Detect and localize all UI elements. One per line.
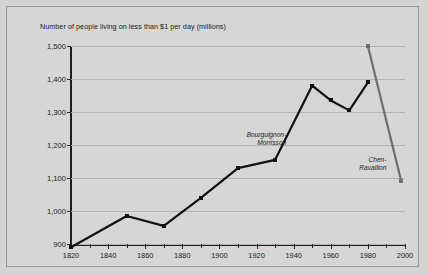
chart-title: Number of people living on less than $1 … <box>40 22 226 31</box>
data-series-layer <box>71 46 405 244</box>
data-point-marker <box>162 224 166 228</box>
data-point-marker <box>236 166 240 170</box>
data-point-marker <box>347 108 351 112</box>
data-point-marker <box>329 98 333 102</box>
data-point-marker <box>366 44 370 48</box>
y-axis-tick-label: 1,000 <box>47 207 66 216</box>
x-axis-tick <box>275 244 276 248</box>
data-point-marker <box>366 80 370 84</box>
x-axis-tick <box>312 244 313 248</box>
x-axis-tick-label: 1860 <box>137 251 153 260</box>
x-axis-tick <box>405 244 406 249</box>
x-axis-tick <box>238 244 239 248</box>
annotation-line: Chen- <box>359 156 386 164</box>
x-axis-tick-label: 1980 <box>360 251 376 260</box>
x-axis-tick <box>164 244 165 248</box>
data-point-marker <box>125 214 129 218</box>
series-annotation: Chen-Ravallion <box>359 156 386 172</box>
data-point-marker <box>69 245 73 249</box>
x-axis-tick <box>294 244 295 249</box>
x-axis-tick <box>368 244 369 249</box>
annotation-line: Bourguignon- <box>247 131 287 139</box>
chart-frame: Number of people living on less than $1 … <box>6 6 419 267</box>
plot-area: 1,5001,4001,3001,2001,1001,000900 182018… <box>71 46 405 244</box>
data-point-marker <box>310 84 314 88</box>
data-point-marker <box>199 196 203 200</box>
x-axis-tick <box>257 244 258 249</box>
x-axis-tick <box>108 244 109 249</box>
y-axis-tick-label: 1,500 <box>47 42 66 51</box>
y-axis-tick-label: 1,400 <box>47 75 66 84</box>
y-axis-tick-label: 900 <box>53 240 66 249</box>
x-axis-tick <box>182 244 183 249</box>
x-axis-tick-label: 1820 <box>63 251 79 260</box>
x-axis-tick-label: 1960 <box>323 251 339 260</box>
data-point-marker <box>399 179 403 183</box>
x-axis-tick <box>219 244 220 249</box>
x-axis-tick <box>127 244 128 248</box>
x-axis-tick-label: 1920 <box>248 251 264 260</box>
annotation-line: Ravallion <box>359 164 386 172</box>
data-point-marker <box>273 158 277 162</box>
series-line <box>71 82 368 247</box>
x-axis-tick-label: 1940 <box>285 251 301 260</box>
y-axis-tick-label: 1,100 <box>47 174 66 183</box>
x-axis-tick <box>331 244 332 249</box>
x-axis-tick <box>349 244 350 248</box>
y-axis-tick-label: 1,300 <box>47 108 66 117</box>
x-axis-tick-label: 2000 <box>397 251 413 260</box>
x-axis-tick-label: 1840 <box>100 251 116 260</box>
series-annotation: Bourguignon-Morrisson <box>247 131 287 147</box>
y-axis-tick-label: 1,200 <box>47 141 66 150</box>
x-axis-tick <box>90 244 91 248</box>
x-axis-tick <box>201 244 202 248</box>
x-axis-tick-label: 1880 <box>174 251 190 260</box>
x-axis-tick <box>145 244 146 249</box>
x-axis-tick-label: 1900 <box>211 251 227 260</box>
annotation-line: Morrisson <box>247 139 287 147</box>
x-axis-tick <box>386 244 387 248</box>
